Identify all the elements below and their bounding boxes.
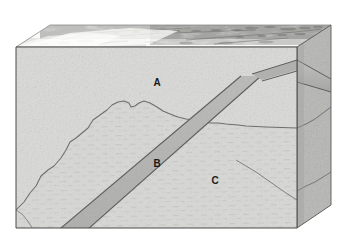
top-surface <box>16 25 332 48</box>
label-dike-c: C <box>211 175 218 186</box>
label-unit-b: B <box>153 158 160 169</box>
right-face <box>295 24 335 235</box>
top-terrain-relief <box>16 25 332 48</box>
label-unit-a: A <box>153 77 160 88</box>
figure-canvas: A B C <box>0 0 342 247</box>
block-diagram: A B C <box>0 0 342 247</box>
